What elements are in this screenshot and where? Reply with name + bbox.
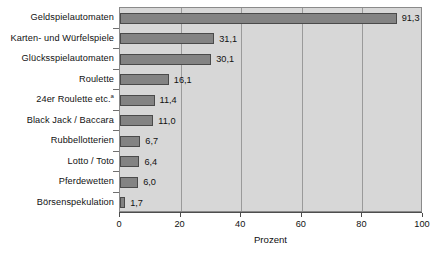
x-axis-tick <box>180 213 181 217</box>
category-label: Karten- und Würfelspiele <box>0 33 114 43</box>
category-label: 24er Roulette etc.a <box>0 94 114 104</box>
category-axis-labels: GeldspielautomatenKarten- und Würfelspie… <box>0 7 114 212</box>
bar <box>120 33 214 44</box>
x-axis-tick <box>119 213 120 217</box>
category-label: Black Jack / Baccara <box>0 115 114 125</box>
bar-value-label: 6,7 <box>145 136 158 146</box>
gridline <box>302 8 303 211</box>
bar <box>120 74 169 85</box>
x-axis-tick-label: 0 <box>116 219 121 230</box>
bar-value-label: 6,4 <box>144 157 157 167</box>
bar <box>120 136 140 147</box>
x-axis-tick-label: 100 <box>414 219 429 230</box>
x-axis-tick <box>422 213 423 217</box>
y-axis-tick <box>113 130 119 131</box>
bar <box>120 13 397 24</box>
bar-value-label: 1,7 <box>130 198 143 208</box>
category-label: Börsenspekulation <box>0 197 114 207</box>
bar-value-label: 31,1 <box>219 34 237 44</box>
bar-chart: GeldspielautomatenKarten- und Würfelspie… <box>0 0 446 260</box>
bar-value-label: 11,4 <box>160 95 177 105</box>
bar-value-label: 91,3 <box>402 13 420 23</box>
y-axis-tick <box>113 69 119 70</box>
y-axis-tick <box>113 151 119 152</box>
bar-value-label: 16,1 <box>174 75 192 85</box>
bar <box>120 54 211 65</box>
category-label: Geldspielautomaten <box>0 12 114 22</box>
gridline <box>362 8 363 211</box>
gridline <box>241 8 242 211</box>
x-axis-tick <box>301 213 302 217</box>
category-label: Rubbellotterien <box>0 135 114 145</box>
x-axis-title: Prozent <box>119 234 422 246</box>
bar-value-label: 11,0 <box>158 116 175 126</box>
y-axis-tick <box>113 171 119 172</box>
y-axis-tick <box>113 192 119 193</box>
bar-value-label: 6,0 <box>143 177 156 187</box>
x-axis-tick <box>361 213 362 217</box>
footnote-marker: a <box>111 93 114 99</box>
x-axis-tick-label: 80 <box>356 219 366 230</box>
x-axis-tick <box>240 213 241 217</box>
bar <box>120 156 139 167</box>
bar <box>120 197 125 208</box>
x-axis-tick-label: 40 <box>235 219 245 230</box>
y-axis-tick <box>113 48 119 49</box>
y-axis-tick <box>113 110 119 111</box>
category-label: Glücksspielautomaten <box>0 53 114 63</box>
category-label: Lotto / Toto <box>0 156 114 166</box>
bar <box>120 177 138 188</box>
category-label: Pferdewetten <box>0 176 114 186</box>
x-axis-tick-label: 60 <box>296 219 306 230</box>
plot-area: 91,331,130,116,111,411,06,76,46,01,7 <box>119 7 422 212</box>
x-axis-tick-label: 20 <box>174 219 184 230</box>
x-axis-line <box>119 212 422 213</box>
bar <box>120 115 153 126</box>
y-axis-tick <box>113 28 119 29</box>
category-label: Roulette <box>0 74 114 84</box>
bar <box>120 95 155 106</box>
y-axis-tick <box>113 89 119 90</box>
bar-value-label: 30,1 <box>216 54 234 64</box>
